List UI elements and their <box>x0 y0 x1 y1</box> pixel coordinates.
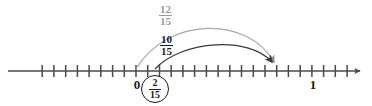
number-line-figure: 12 15 10 15 0 1 2 15 <box>0 0 372 106</box>
circled-point-label-two-fifteenths: 2 15 <box>141 75 169 103</box>
fraction-two-fifteenths: 2 15 <box>149 78 161 99</box>
tick-label-one: 1 <box>306 78 320 91</box>
fraction-denominator: 15 <box>160 46 173 57</box>
fraction-denominator: 15 <box>149 90 161 100</box>
fraction-denominator: 15 <box>159 16 172 27</box>
jump-arc-twelve-fifteenths <box>136 28 274 69</box>
jump-label-twelve-fifteenths: 12 15 <box>159 4 172 27</box>
fraction-numerator: 2 <box>149 78 161 89</box>
fraction-ten-fifteenths: 10 15 <box>160 34 173 57</box>
fraction-twelve-fifteenths: 12 15 <box>159 4 172 27</box>
jump-label-ten-fifteenths: 10 15 <box>160 34 173 57</box>
